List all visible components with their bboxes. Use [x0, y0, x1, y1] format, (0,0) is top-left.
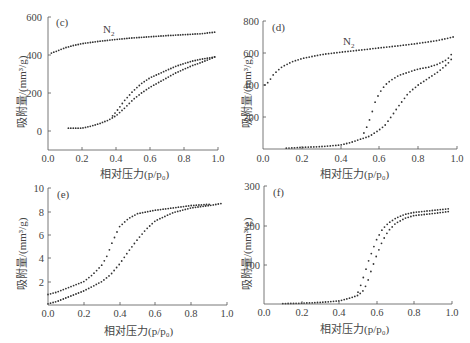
data-point	[114, 112, 116, 114]
svg-text:0.4: 0.4	[113, 308, 127, 319]
data-point	[143, 36, 145, 38]
data-point	[386, 46, 388, 48]
data-point	[411, 70, 413, 72]
data-point	[349, 142, 351, 144]
data-point	[156, 219, 158, 221]
data-point	[394, 218, 396, 220]
data-point	[164, 216, 166, 218]
data-point	[212, 204, 214, 206]
data-point	[170, 75, 172, 77]
data-point	[65, 47, 67, 49]
data-point	[175, 34, 177, 36]
data-point	[155, 74, 157, 76]
data-point	[57, 300, 59, 302]
data-point	[278, 69, 280, 71]
data-point	[163, 71, 165, 73]
data-point	[107, 40, 109, 42]
data-point	[283, 65, 285, 67]
data-point	[146, 79, 148, 81]
data-point	[124, 99, 126, 101]
data-point	[119, 226, 121, 228]
data-point	[389, 229, 391, 231]
data-point	[426, 79, 428, 81]
data-point	[365, 268, 367, 270]
data-point	[85, 42, 87, 44]
data-point	[418, 214, 420, 216]
data-point	[101, 264, 103, 266]
data-point	[214, 56, 216, 58]
data-point	[319, 302, 321, 304]
data-point	[124, 38, 126, 40]
data-point	[129, 249, 131, 251]
data-point	[375, 47, 377, 49]
data-point	[91, 275, 93, 277]
data-point	[397, 221, 399, 223]
data-point	[442, 61, 444, 63]
data-point	[310, 146, 312, 148]
data-point	[197, 63, 199, 65]
data-point	[206, 59, 208, 61]
data-point	[75, 44, 77, 46]
data-point	[153, 75, 155, 77]
data-point	[338, 144, 340, 146]
data-point	[149, 210, 151, 212]
data-point	[102, 122, 104, 124]
svg-text:6: 6	[39, 230, 44, 241]
data-point	[187, 34, 189, 36]
data-point	[141, 82, 143, 84]
data-point	[341, 299, 343, 301]
data-point	[209, 57, 211, 59]
data-point	[206, 32, 208, 34]
data-point	[398, 105, 400, 107]
data-point	[180, 34, 182, 36]
data-point	[148, 36, 150, 38]
data-point	[97, 41, 99, 43]
data-point	[294, 147, 296, 149]
svg-text:0.2: 0.2	[77, 308, 90, 319]
data-point	[205, 205, 207, 207]
data-point	[308, 56, 310, 58]
data-point	[428, 66, 430, 68]
data-point	[160, 209, 162, 211]
data-point	[70, 127, 72, 129]
data-point	[377, 95, 379, 97]
data-point	[382, 126, 384, 128]
svg-text:0.0: 0.0	[41, 308, 54, 319]
data-point	[204, 58, 206, 60]
data-point	[362, 137, 364, 139]
data-point	[75, 284, 77, 286]
svg-text:8: 8	[39, 207, 44, 218]
data-point	[195, 206, 197, 208]
data-point	[349, 297, 351, 299]
data-point	[93, 285, 95, 287]
data-point	[187, 62, 189, 64]
data-point	[413, 215, 415, 217]
data-point	[187, 67, 189, 69]
data-point	[331, 52, 333, 54]
data-point	[444, 38, 446, 40]
data-point	[413, 212, 415, 214]
data-point	[291, 147, 293, 149]
data-point	[172, 67, 174, 69]
data-point	[116, 114, 118, 116]
data-point	[172, 207, 174, 209]
data-point	[75, 127, 77, 129]
data-point	[126, 38, 128, 40]
plot-area-c	[51, 31, 216, 129]
data-point	[439, 209, 441, 211]
data-point	[193, 205, 195, 207]
data-point	[138, 37, 140, 39]
data-point	[346, 143, 348, 145]
data-point	[60, 48, 62, 50]
data-point	[192, 207, 194, 209]
data-point	[340, 144, 342, 146]
data-point	[177, 71, 179, 73]
data-point	[447, 211, 449, 213]
data-point	[365, 285, 367, 287]
data-point	[390, 117, 392, 119]
data-point	[393, 113, 395, 115]
data-point	[351, 141, 353, 143]
data-point	[378, 249, 380, 251]
data-point	[189, 61, 191, 63]
data-point	[381, 242, 383, 244]
